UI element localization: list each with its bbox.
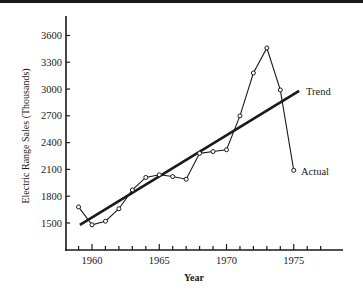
- x-axis-title: Year: [184, 272, 205, 283]
- data-point-marker: [171, 175, 175, 179]
- axes: [65, 16, 343, 251]
- data-point-marker: [77, 205, 81, 209]
- data-point-marker: [144, 175, 148, 179]
- actual-label: Actual: [301, 166, 329, 177]
- data-point-marker: [90, 223, 94, 227]
- y-tick-label: 2400: [41, 137, 62, 148]
- actual-series: [77, 46, 296, 227]
- trend-line-path: [80, 91, 299, 225]
- data-point-marker: [117, 207, 121, 211]
- x-tick-label: 1975: [283, 255, 304, 266]
- y-tick-label: 2700: [41, 110, 62, 121]
- x-tick-label: 1965: [149, 255, 170, 266]
- data-point-marker: [130, 188, 134, 192]
- data-point-marker: [278, 88, 282, 92]
- trend-label: Trend: [306, 86, 331, 97]
- data-point-marker: [198, 151, 202, 155]
- y-tick-label: 3600: [41, 30, 62, 41]
- x-axis-ticks: 1960196519701975: [79, 244, 321, 266]
- data-point-marker: [103, 219, 107, 223]
- data-point-marker: [157, 173, 161, 177]
- y-tick-label: 3000: [41, 84, 62, 95]
- y-tick-label: 2100: [41, 164, 62, 175]
- data-point-marker: [265, 46, 269, 50]
- data-point-marker: [292, 168, 296, 172]
- y-tick-label: 3300: [41, 57, 62, 68]
- y-tick-label: 1500: [41, 218, 62, 229]
- data-point-marker: [184, 177, 188, 181]
- x-tick-label: 1960: [82, 255, 103, 266]
- actual-line-path: [79, 48, 294, 225]
- line-chart: 15001800210024002700300033003600 1960196…: [0, 0, 363, 295]
- data-point-marker: [225, 148, 229, 152]
- y-tick-label: 1800: [41, 191, 62, 202]
- data-point-marker: [251, 71, 255, 75]
- x-tick-label: 1970: [216, 255, 237, 266]
- trend-line: [80, 91, 299, 225]
- data-point-marker: [211, 150, 215, 154]
- data-point-marker: [238, 114, 242, 118]
- y-axis-title: Electric Range Sales (Thousands): [20, 68, 32, 203]
